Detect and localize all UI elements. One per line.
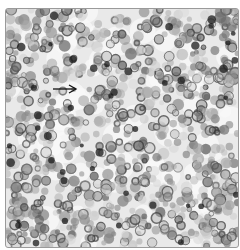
cell-texture bbox=[6, 9, 238, 247]
arrow-annotation-icon bbox=[52, 84, 78, 94]
micrograph-image bbox=[5, 8, 239, 248]
